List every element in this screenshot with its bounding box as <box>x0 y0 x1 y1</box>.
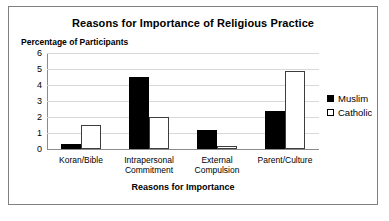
legend-label: Catholic <box>338 107 372 118</box>
x-axis-category-label: Koran/Bible <box>59 155 103 165</box>
y-axis-tick-label: 3 <box>37 96 42 106</box>
y-axis-tick-label: 5 <box>37 64 42 74</box>
x-axis-category-label: External Compulsion <box>195 155 240 175</box>
bar-group: Koran/Bible <box>47 53 115 149</box>
legend-item-catholic: Catholic <box>327 105 372 119</box>
bar-muslim <box>265 111 285 149</box>
x-axis-category-label: Intrapersonal Commitment <box>124 155 174 175</box>
y-axis-tick-label: 6 <box>37 48 42 58</box>
legend-label: Muslim <box>338 93 368 104</box>
bar-group: External Compulsion <box>183 53 251 149</box>
y-axis-tick-label: 1 <box>37 128 42 138</box>
chart-frame: Reasons for Importance of Religious Prac… <box>8 6 378 205</box>
legend-swatch-icon <box>327 95 334 102</box>
x-axis-title: Reasons for Importance <box>47 182 319 192</box>
bar-muslim <box>61 144 81 149</box>
y-axis-tick-label: 2 <box>37 112 42 122</box>
bar-catholic <box>285 71 305 149</box>
bar-catholic <box>81 125 101 149</box>
y-axis-title: Percentage of Participants <box>21 37 128 47</box>
y-axis-tick-label: 0 <box>37 144 42 154</box>
gridline <box>47 149 319 150</box>
legend-swatch-icon <box>327 109 334 116</box>
y-axis-tick-label: 4 <box>37 80 42 90</box>
x-axis-category-label: Parent/Culture <box>258 155 313 165</box>
bar-catholic <box>149 117 169 149</box>
bar-muslim <box>197 130 217 149</box>
chart-legend: MuslimCatholic <box>327 91 372 119</box>
bar-group: Parent/Culture <box>251 53 319 149</box>
bar-group: Intrapersonal Commitment <box>115 53 183 149</box>
bar-catholic <box>217 146 237 149</box>
chart-title: Reasons for Importance of Religious Prac… <box>9 17 377 29</box>
legend-item-muslim: Muslim <box>327 91 372 105</box>
plot-area: 6543210 Koran/BibleIntrapersonal Commitm… <box>47 53 319 149</box>
bar-muslim <box>129 77 149 149</box>
